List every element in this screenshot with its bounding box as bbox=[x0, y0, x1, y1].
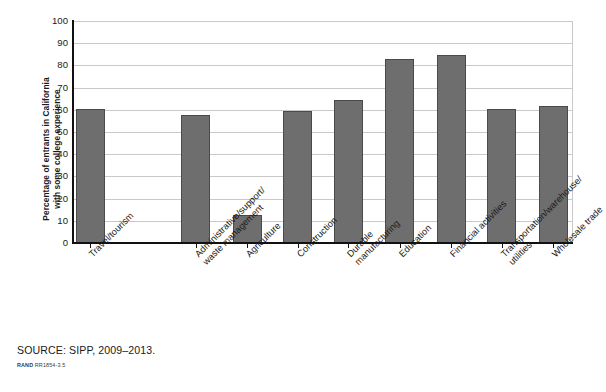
y-axis-tick-label: 90 bbox=[38, 38, 68, 48]
x-axis-tick bbox=[196, 244, 197, 248]
y-axis-line bbox=[72, 20, 74, 244]
x-axis-tick bbox=[247, 244, 248, 248]
y-axis-tick-label: 60 bbox=[38, 105, 68, 115]
y-axis-tick-label: 50 bbox=[38, 127, 68, 137]
plot-area bbox=[74, 21, 573, 243]
bar bbox=[283, 111, 312, 243]
gridline bbox=[74, 65, 573, 66]
bar bbox=[181, 115, 210, 243]
y-axis-tick-label: 80 bbox=[38, 60, 68, 70]
y-axis-tick-label: 40 bbox=[38, 149, 68, 159]
bar bbox=[487, 109, 516, 243]
y-axis-tick-label: 0 bbox=[38, 238, 68, 248]
y-axis-tick-label: 100 bbox=[38, 16, 68, 26]
y-axis-tick-label: 20 bbox=[38, 194, 68, 204]
x-axis-tick bbox=[451, 244, 452, 248]
rand-brand: RAND bbox=[17, 362, 33, 368]
y-axis-tick-label: 70 bbox=[38, 83, 68, 93]
y-axis-tick-labels: 0102030405060708090100 bbox=[32, 21, 68, 243]
gridline bbox=[74, 21, 573, 22]
bar bbox=[76, 109, 105, 243]
x-axis-tick bbox=[90, 244, 91, 248]
bar bbox=[233, 215, 262, 243]
y-axis-tick-label: 10 bbox=[38, 216, 68, 226]
gridline bbox=[74, 43, 573, 44]
bar bbox=[539, 106, 568, 243]
x-axis-tick bbox=[298, 244, 299, 248]
x-axis-tick bbox=[553, 244, 554, 248]
x-axis-tick bbox=[502, 244, 503, 248]
bar bbox=[385, 59, 414, 243]
gridline bbox=[74, 88, 573, 89]
bar bbox=[437, 55, 466, 243]
y-axis-tick-label: 30 bbox=[38, 171, 68, 181]
bar bbox=[334, 100, 363, 243]
x-axis-tick bbox=[348, 244, 349, 248]
source-note: SOURCE: SIPP, 2009–2013. bbox=[17, 344, 155, 357]
x-axis-tick bbox=[400, 244, 401, 248]
rand-code: RR1854-3.5 bbox=[35, 362, 66, 368]
report-identifier: RAND RR1854-3.5 bbox=[17, 362, 65, 369]
x-axis-line bbox=[72, 242, 573, 244]
